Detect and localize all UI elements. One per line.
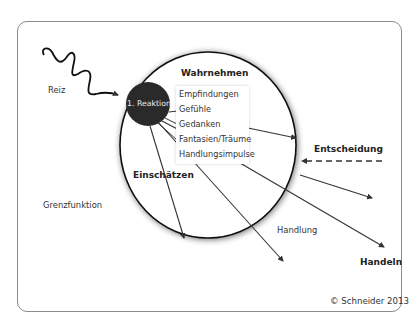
perception-item: Empfindungen	[179, 89, 239, 99]
copyright-label: © Schneider 2013	[330, 296, 409, 306]
perception-item: Gedanken	[179, 119, 220, 129]
acting-label: Handeln	[360, 257, 402, 267]
perception-item: Fantasien/Träume	[179, 134, 251, 144]
arrow-to-handlung	[300, 175, 372, 198]
assessment-label: Einschätzen	[133, 170, 194, 180]
perception-list: Empfindungen Gefühle Gedanken Fantasien/…	[176, 86, 249, 164]
diagram-canvas: Empfindungen Gefühle Gedanken Fantasien/…	[0, 0, 419, 331]
diagram-graphics	[0, 0, 419, 331]
perception-item: Handlungsimpulse	[179, 149, 255, 159]
perception-heading: Wahrnehmen	[181, 68, 248, 78]
first-reaction-label: 1. Reaktion	[126, 99, 172, 108]
action-label: Handlung	[277, 225, 317, 235]
stimulus-label: Reiz	[48, 85, 65, 95]
perception-item: Gefühle	[179, 104, 211, 114]
boundary-label: Grenzfunktion	[43, 200, 102, 210]
decision-label: Entscheidung	[314, 144, 383, 154]
